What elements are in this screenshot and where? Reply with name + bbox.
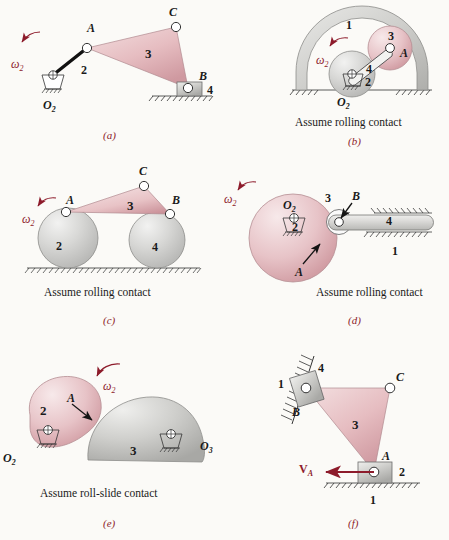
panel-b-link-number-1: 1 — [346, 19, 352, 31]
panel-b-joint-A — [386, 44, 395, 53]
panel-a-omega-label: ω2 — [11, 58, 23, 73]
panel-d-omega-label: ω2 — [224, 193, 236, 208]
panel-c-omega-label: ω2 — [22, 213, 34, 228]
panel-a-label-B: B — [199, 70, 207, 82]
panel-e-body3 — [88, 397, 205, 462]
panel-a-label-O2: O2 — [43, 99, 56, 114]
panel-d-slot-hatch-top — [371, 208, 432, 213]
panel-c-label-A: A — [66, 194, 74, 206]
panel-f-caption: (f) — [348, 518, 358, 529]
panel-f-link-number-1-ground: 1 — [370, 494, 376, 506]
panel-e-link-number-3: 3 — [130, 444, 137, 457]
panel-d-bar4 — [329, 215, 434, 230]
panel-e-link-number-2: 2 — [40, 404, 47, 417]
panel-e-omega-arrow — [97, 364, 120, 376]
panel-c-link3-triangle — [66, 186, 170, 214]
panel-f-label-A: A — [382, 450, 390, 462]
panel-a-drawing — [22, 22, 213, 101]
panel-c-ground-ticks — [25, 268, 201, 273]
panel-d-slot-hatch-bottom — [364, 232, 432, 237]
panel-b-caption: (b) — [348, 136, 361, 147]
panel-b-link-number-3: 3 — [388, 30, 394, 42]
panel-a-label-C: C — [169, 6, 177, 18]
panel-c-caption: (c) — [103, 315, 115, 326]
panel-b-drawing — [290, 6, 432, 97]
panel-f-link-number-4: 4 — [318, 362, 324, 374]
panel-d-link-number-1: 1 — [392, 245, 398, 257]
panel-f-link-number-1-wall: 1 — [278, 378, 284, 390]
panel-c-link-number-4: 4 — [152, 241, 158, 253]
panel-c-link-number-2: 2 — [56, 240, 62, 252]
panel-b-label-A: A — [400, 47, 408, 59]
panel-c-link-number-3: 3 — [127, 199, 134, 212]
panel-d-label-O2: O2 — [283, 199, 296, 214]
panel-a-link-number-4: 4 — [207, 84, 213, 96]
panel-d-note: Assume rolling contact — [316, 287, 423, 299]
panel-f-ground-hatch — [324, 483, 420, 488]
panel-a-label-A: A — [87, 22, 95, 34]
panel-e-label-O3: O3 — [200, 440, 213, 455]
panel-c-joint-C — [139, 181, 148, 190]
panel-e-omega-label: ω2 — [103, 380, 115, 395]
panel-a-link-number-3: 3 — [145, 47, 152, 60]
panel-d-caption: (d) — [348, 315, 361, 326]
panel-e-label-O2: O2 — [3, 452, 16, 467]
panel-a-joint-A — [82, 43, 91, 52]
panel-c-joint-B — [165, 209, 174, 218]
panel-f-joint-B — [301, 383, 311, 393]
panel-b-omega-label: ω2 — [316, 54, 328, 69]
panel-b-note: Assume rolling contact — [295, 117, 402, 129]
panel-f-label-B: B — [292, 406, 300, 418]
panel-e-drawing — [29, 364, 204, 462]
panel-a-ground-hatch — [149, 96, 213, 101]
panel-c-label-B: B — [172, 194, 180, 206]
panel-f-link-number-2: 2 — [399, 466, 405, 478]
panel-e-label-A: A — [67, 392, 75, 404]
panel-f-label-C: C — [396, 371, 404, 383]
panel-d-link-number-4: 4 — [386, 215, 392, 227]
panel-b-label-O2: O2 — [337, 96, 350, 111]
panel-a-joint-B — [183, 83, 192, 92]
panel-d-link-number-3: 3 — [325, 192, 331, 204]
panel-e-note: Assume roll-slide contact — [40, 488, 158, 500]
panel-d-omega-arrow — [238, 182, 256, 190]
panel-a-pivot-support — [42, 71, 64, 93]
panel-f-joint-C — [385, 383, 395, 393]
panel-d-drawing — [238, 182, 434, 282]
panel-c-wheel2 — [38, 208, 98, 268]
panel-a-link3-triangle — [87, 27, 188, 88]
panel-a-link-number-2: 2 — [81, 64, 87, 76]
panel-d-link-number-2: 2 — [292, 221, 298, 233]
panel-a-omega-arrow — [22, 32, 40, 42]
panel-c-label-C: C — [139, 165, 147, 177]
panel-d-label-A: A — [295, 266, 303, 278]
panel-f-link-number-3: 3 — [352, 418, 359, 431]
panel-c-omega-arrow — [38, 198, 56, 206]
panel-d-joint-B — [335, 218, 344, 227]
panel-e-caption: (e) — [103, 518, 115, 529]
panel-a-joint-C — [171, 22, 180, 31]
panel-d-label-B: B — [352, 190, 360, 202]
panel-a-caption: (a) — [103, 130, 116, 141]
panel-b-link-number-2: 2 — [365, 76, 371, 88]
panel-c-note: Assume rolling contact — [44, 287, 151, 299]
panel-c-joint-A — [61, 207, 70, 216]
panel-b-link-number-4: 4 — [366, 63, 372, 75]
panel-f-velocity-label: VA — [299, 463, 313, 478]
panel-b-omega-arrow — [330, 38, 348, 46]
